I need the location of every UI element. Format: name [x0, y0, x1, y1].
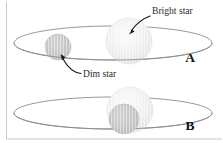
dim-star-leader-line	[63, 59, 81, 74]
binary-star-diagram: A B Bright star	[0, 0, 223, 143]
bright-star-a	[106, 18, 152, 64]
dim-star-b	[109, 104, 139, 134]
panel-a: A	[14, 18, 212, 65]
dim-star-callout: Dim star	[61, 54, 118, 79]
panel-label-a: A	[185, 50, 195, 65]
panel-label-b: B	[185, 118, 194, 133]
diagram-canvas: A B Bright star	[0, 0, 223, 143]
bright-star-label: Bright star	[152, 5, 194, 16]
dim-star-label: Dim star	[83, 68, 117, 79]
panel-b: B	[14, 87, 212, 134]
